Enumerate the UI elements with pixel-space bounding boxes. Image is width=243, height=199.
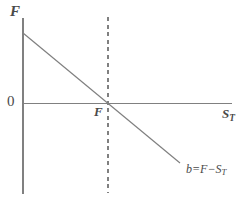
payoff-subscript: T bbox=[222, 167, 227, 177]
origin-label: 0 bbox=[7, 94, 15, 109]
x-axis-label: ST bbox=[222, 107, 235, 120]
forward-payoff-figure: F 0 F ST b=F−ST bbox=[0, 0, 243, 199]
x-axis-subscript: T bbox=[229, 113, 235, 123]
strike-tick-label: F bbox=[94, 105, 103, 118]
payoff-expression: b=F−S bbox=[186, 162, 222, 176]
payoff-line-label: b=F−ST bbox=[186, 163, 226, 175]
payoff-line bbox=[23, 33, 180, 163]
y-axis-label: F bbox=[10, 4, 20, 19]
